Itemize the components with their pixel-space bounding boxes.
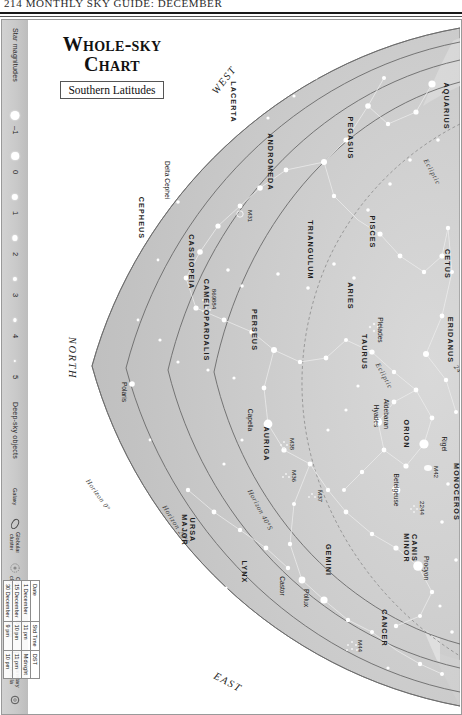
legend-magnitude-row: 1 — [2, 188, 28, 228]
legend-magnitude-label: –1 — [11, 126, 20, 136]
legend-magnitude-label: 2 — [11, 249, 20, 258]
star-name-label: Procyon — [423, 556, 430, 580]
star-name-label: Aldebaran — [383, 399, 390, 429]
constellation-label: CASSIOPEIA — [187, 234, 196, 289]
deep-sky-object-label: 884 — [211, 299, 218, 309]
date-time-table-header-cell: Std Time — [31, 621, 40, 650]
circle-outline-icon — [9, 692, 21, 710]
chart-plate: Star magnitudes–1012345 Deep-sky objects… — [1, 19, 462, 715]
constellation-label: CEPHEUS — [137, 197, 146, 239]
constellation-label: ORION — [402, 419, 411, 448]
legend-magnitude-row: –1 — [2, 106, 28, 146]
deep-sky-object-label: M38 — [289, 438, 296, 450]
constellation-label: ANDROMEDA — [266, 133, 275, 190]
star-name-label: Pollux — [303, 589, 310, 607]
chart-subtitle: Southern Latitudes — [60, 81, 163, 99]
legend-deep-sky-label: Galaxy — [2, 488, 28, 516]
constellation-label: CETUS — [443, 249, 452, 279]
star-dot-icon — [14, 360, 16, 362]
star-dot-icon — [11, 111, 20, 120]
date-time-table-header-row: DateStd TimeDST — [31, 581, 40, 679]
legend-magnitude-row: 3 — [2, 270, 28, 310]
star-name-label: Pleiades — [377, 317, 384, 342]
date-time-table: DateStd TimeDST 1 December11 pmMidnight1… — [3, 580, 40, 679]
star-name-label: Hyades — [373, 405, 380, 427]
star-dot-icon — [12, 194, 18, 200]
chart-title-block: Whole-sky Chart Southern Latitudes — [42, 34, 182, 99]
legend-magnitude-label: 4 — [11, 331, 20, 340]
compass-direction-label: NORTH — [67, 337, 78, 379]
constellation-label: ERIDANUS — [446, 317, 455, 363]
legend-deep-sky-row: Globularcluster — [2, 532, 28, 576]
star-name-label: Capella — [247, 409, 254, 431]
running-head-text: 214 MONTHLY SKY GUIDE: DECEMBER — [4, 0, 222, 9]
star-name-label: Castor — [279, 576, 286, 595]
deep-sky-object-label: M42 — [433, 466, 440, 478]
date-time-table-cell: 30 December — [4, 581, 13, 622]
constellation-label: PISCES — [368, 216, 377, 249]
legend-deep-sky-row: Galaxy — [2, 488, 28, 532]
deep-sky-object-label: M31 — [247, 210, 254, 222]
constellation-label: AURIGA — [262, 427, 271, 462]
legend-magnitude-label: 5 — [11, 372, 20, 381]
legend-magnitude-row: 4 — [2, 311, 28, 351]
constellation-label: GEMINI — [324, 544, 333, 576]
constellation-label: PEGASUS — [346, 117, 355, 160]
deep-sky-object-label: 2244 — [419, 501, 426, 515]
legend-magnitude-row: 2 — [2, 229, 28, 269]
constellation-label: TAURUS — [360, 334, 369, 370]
star-dot-icon — [13, 318, 16, 321]
date-time-table-header-cell: Date — [31, 581, 40, 622]
star-name-label: Polaris — [121, 382, 128, 402]
date-time-table-row: 15 December10 pm11 pm — [13, 581, 22, 679]
constellation-label: LYNX — [240, 561, 249, 584]
star-dot-icon — [12, 235, 17, 240]
chart-title-line1: Whole-sky — [42, 34, 182, 54]
star-name-label: Betelgeuse — [393, 474, 400, 507]
header-rule-thin — [0, 16, 462, 17]
constellation-label: TRIANGULUM — [306, 220, 315, 279]
constellation-label: CAMELOPARDALIS — [202, 279, 211, 362]
legend-magnitude-label: 1 — [11, 208, 20, 217]
date-time-table-row: 1 December11 pmMidnight — [22, 581, 31, 679]
legend-star-magnitudes-heading: Star magnitudes — [2, 28, 28, 92]
deep-sky-object-label: M44 — [357, 640, 364, 652]
star-name-label: Delta Cephei — [164, 161, 171, 199]
date-time-table-cell: 11 pm — [22, 621, 31, 650]
chart-title-line2: Chart — [42, 54, 182, 74]
deep-sky-object-label: M37 — [317, 490, 324, 502]
legend-magnitude-row: 0 — [2, 147, 28, 187]
deep-sky-object-label: 869 — [211, 289, 218, 299]
constellation-label: ARIES — [346, 282, 355, 309]
date-time-table-cell: 10 pm — [4, 650, 13, 678]
date-time-table-cell: 15 December — [13, 581, 22, 622]
star-dot-icon — [13, 277, 17, 281]
legend-deep-sky-label: Globularcluster — [2, 532, 28, 560]
date-time-table-body: 1 December11 pmMidnight15 December10 pm1… — [4, 581, 31, 679]
legend-magnitude-row: 5 — [2, 352, 28, 392]
legend-magnitude-label: 0 — [11, 167, 20, 176]
constellation-label: AQUARIUS — [442, 82, 451, 129]
deep-sky-object-label: M36 — [291, 470, 298, 482]
star-dot-icon — [11, 152, 19, 160]
date-time-table-cell: 11 pm — [13, 650, 22, 678]
date-time-table-cell: 9 pm — [4, 621, 13, 650]
header-rule-thick — [0, 12, 462, 14]
star-name-label: Rigel — [441, 436, 448, 451]
constellation-label: PERSEUS — [250, 309, 259, 351]
date-time-table-wrapper: DateStd TimeDST 1 December11 pmMidnight1… — [40, 580, 139, 617]
constellation-label: MONOCEROS — [452, 463, 461, 521]
legend-magnitude-label: 3 — [11, 290, 20, 299]
date-time-table-cell: 10 pm — [13, 621, 22, 650]
date-time-table-header-cell: DST — [31, 650, 40, 678]
constellation-label: CANISMINOR — [403, 533, 418, 562]
date-time-table-row: 30 December9 pm10 pm — [4, 581, 13, 679]
constellation-label: LACERTA — [229, 81, 238, 123]
legend-deep-sky-heading: Deep-sky objects — [2, 402, 28, 476]
constellation-label: CANCER — [380, 609, 389, 646]
date-time-table-cell: 1 December — [22, 581, 31, 622]
date-time-table-cell: Midnight — [22, 650, 31, 678]
